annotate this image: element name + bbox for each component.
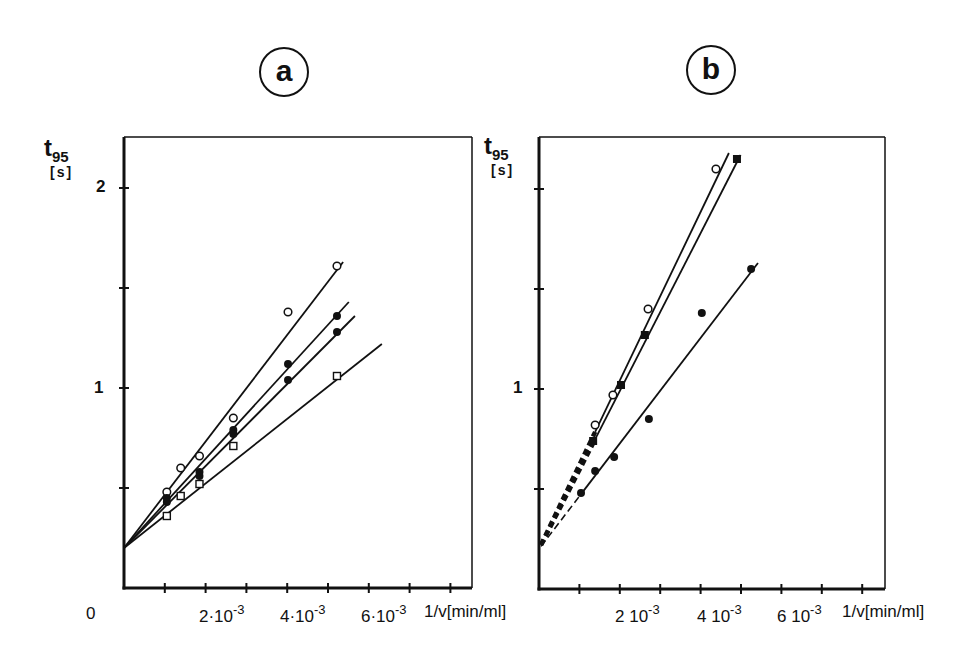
- panel-b-y-tick-1: 1: [513, 378, 522, 398]
- panel-a-x-tick-6e-3: 6·10-3: [361, 602, 407, 627]
- panel-b-x-axis-label: 1/v[min/ml]: [842, 602, 924, 622]
- data-point-open-square: [196, 481, 203, 488]
- fit-line: [124, 302, 349, 548]
- panel-a-y-axis-label: t95: [44, 134, 69, 165]
- panel-b-x-tick-2e-3: 2 10-3: [615, 602, 660, 627]
- panel-a-x-tick-2e-3-exponent: -3: [233, 602, 245, 617]
- panel-a-x-origin-label: 0: [86, 604, 95, 624]
- panel-b-x-tick-4e-3-exponent: -3: [730, 602, 742, 617]
- extrapolation-dashed-line: [541, 494, 581, 546]
- panel-a-x-tick-4e-3: 4·10-3: [280, 602, 326, 627]
- panel-a-plot-area: [119, 137, 472, 593]
- data-point-filled-circle: [229, 430, 237, 438]
- data-point-open-circle: [177, 464, 185, 472]
- panel-b-x-tick-6e-3-mantissa: 6 10: [777, 607, 810, 626]
- panel-b-x-tick-2e-3-exponent: -3: [648, 602, 660, 617]
- panel-b-label: b: [686, 45, 736, 95]
- fit-line: [593, 155, 740, 443]
- panel-b-x-tick-4e-3: 4 10-3: [697, 602, 742, 627]
- panel-a-letter: a: [276, 54, 293, 87]
- data-point-open-square: [333, 373, 340, 380]
- panel-b-x-tick-6e-3: 6 10-3: [777, 602, 822, 627]
- panel-b-x-tick-6e-3-exponent: -3: [810, 602, 822, 617]
- fit-line: [124, 262, 343, 548]
- panel-a-x-tick-4e-3-exponent: -3: [314, 602, 326, 617]
- data-point-open-square: [177, 493, 184, 500]
- data-point-open-square: [163, 513, 170, 520]
- data-point-open-circle: [230, 414, 238, 422]
- data-point-open-circle: [196, 452, 204, 460]
- data-point-open-circle: [284, 308, 292, 316]
- data-point-filled-square: [617, 381, 625, 389]
- data-point-filled-circle: [284, 360, 292, 368]
- data-point-filled-circle: [333, 312, 341, 320]
- data-point-filled-circle: [333, 328, 341, 336]
- data-point-open-circle: [609, 391, 617, 399]
- fit-line: [581, 263, 758, 494]
- fit-line: [595, 153, 729, 432]
- extrapolation-dashed-line: [541, 443, 593, 545]
- data-point-filled-circle: [284, 376, 292, 384]
- data-point-filled-circle: [610, 453, 618, 461]
- panel-a-ylabel-symbol: t: [44, 134, 52, 161]
- data-point-filled-circle: [591, 467, 599, 475]
- panel-a-y-tick-1: 1: [94, 378, 103, 398]
- fit-line: [124, 316, 355, 548]
- panel-b-ylabel-symbol: t: [484, 132, 492, 159]
- panel-a-y-tick-2: 2: [96, 177, 105, 197]
- panel-b-letter: b: [702, 52, 720, 85]
- data-point-filled-square: [641, 331, 649, 339]
- figure-canvas: [0, 0, 974, 660]
- data-point-open-circle: [591, 421, 599, 429]
- data-point-filled-circle: [747, 265, 755, 273]
- panel-a-y-axis-unit: [s]: [50, 164, 73, 180]
- panel-b-y-axis-label: t95: [484, 132, 509, 163]
- data-point-filled-square: [589, 437, 597, 445]
- panel-b-ylabel-subscript: 95: [492, 146, 509, 163]
- data-point-filled-circle: [645, 415, 653, 423]
- panel-a-x-tick-6e-3-mantissa: 6·10: [361, 607, 395, 626]
- panel-a-label: a: [259, 47, 309, 97]
- data-point-open-circle: [712, 165, 720, 173]
- data-point-open-square: [230, 443, 237, 450]
- panel-b-x-tick-2e-3-mantissa: 2 10: [615, 607, 648, 626]
- data-point-filled-circle: [577, 489, 585, 497]
- panel-a-ylabel-subscript: 95: [52, 148, 69, 165]
- data-point-open-circle: [333, 262, 341, 270]
- data-point-filled-circle: [163, 498, 171, 506]
- data-point-filled-circle: [195, 472, 203, 480]
- panel-a-x-tick-2e-3: 2·10-3: [199, 602, 245, 627]
- panel-a-x-tick-2e-3-mantissa: 2·10: [199, 607, 233, 626]
- data-point-open-circle: [644, 305, 652, 313]
- panel-a-x-tick-6e-3-exponent: -3: [395, 602, 407, 617]
- data-point-filled-circle: [698, 309, 706, 317]
- panel-b-y-axis-unit: [s]: [491, 162, 514, 178]
- panel-a-x-tick-4e-3-mantissa: 4·10: [280, 607, 314, 626]
- panel-a-x-axis-label: 1/v[min/ml]: [424, 602, 506, 622]
- data-point-filled-square: [733, 155, 741, 163]
- panel-b-plot-area: [534, 137, 885, 594]
- panel-b-x-tick-4e-3-mantissa: 4 10: [697, 607, 730, 626]
